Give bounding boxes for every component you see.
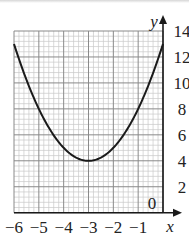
x-axis-arrow-icon bbox=[173, 209, 182, 217]
parabola-chart: −6−5−4−3−2−1 2468101214 0 x y bbox=[0, 0, 189, 249]
x-tick-label: −6 bbox=[5, 218, 23, 237]
y-tick-label: 2 bbox=[178, 178, 187, 197]
x-tick-label: −2 bbox=[104, 218, 122, 237]
y-tick-label: 14 bbox=[174, 22, 190, 41]
x-tick-label: −5 bbox=[30, 218, 48, 237]
y-tick-label: 4 bbox=[178, 152, 187, 171]
x-tick-label: −4 bbox=[55, 218, 74, 237]
x-axis-label: x bbox=[165, 217, 174, 236]
x-tick-label: −3 bbox=[79, 218, 97, 237]
y-axis-label: y bbox=[148, 12, 158, 31]
y-tick-label: 10 bbox=[174, 74, 190, 93]
y-tick-label: 8 bbox=[178, 100, 187, 119]
y-tick-label: 6 bbox=[178, 126, 187, 145]
grid-major-lines bbox=[14, 31, 163, 213]
origin-label: 0 bbox=[148, 194, 157, 213]
y-tick-labels: 2468101214 bbox=[174, 22, 190, 197]
x-tick-label: −1 bbox=[129, 218, 147, 237]
y-axis-arrow-icon bbox=[159, 15, 167, 24]
y-tick-label: 12 bbox=[174, 48, 190, 67]
x-tick-labels: −6−5−4−3−2−1 bbox=[5, 218, 147, 237]
